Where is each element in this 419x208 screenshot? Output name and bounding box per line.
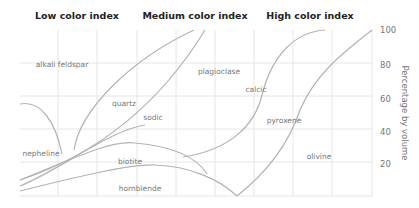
label-pyroxene: pyroxene: [267, 116, 302, 125]
label-sodic: sodic: [143, 113, 162, 122]
header-high-color-index: High color index: [266, 10, 353, 21]
grid: [20, 30, 372, 196]
label-hornblende: hornblende: [119, 184, 162, 193]
header-medium-color-index: Medium color index: [142, 10, 247, 21]
tick-40: 40: [380, 127, 391, 137]
label-quartz: quartz: [112, 99, 136, 108]
label-nepheline: nepheline: [22, 149, 59, 158]
label-plagioclase: plagioclase: [198, 67, 240, 76]
tick-80: 80: [380, 60, 391, 70]
y-axis-label: Percentage by volume: [400, 65, 410, 160]
tick-100: 100: [380, 25, 396, 35]
mineral-composition-diagram: Low color index Medium color index High …: [0, 0, 419, 208]
boundary-curves: [20, 30, 372, 196]
label-alkali-feldspar: alkali feldspar: [36, 60, 89, 69]
label-biotite: biotite: [118, 157, 142, 166]
diagram-canvas: [0, 0, 419, 208]
label-olivine: olivine: [307, 152, 332, 161]
olivine-boundary: [237, 30, 372, 196]
label-calcic: calcic: [245, 85, 266, 94]
tick-60: 60: [380, 94, 391, 104]
header-low-color-index: Low color index: [35, 10, 119, 21]
tick-20: 20: [380, 159, 391, 169]
